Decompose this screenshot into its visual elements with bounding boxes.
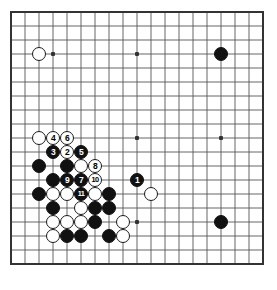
numbered-stone-11: 11 (74, 187, 89, 202)
move-number-label: 4 (47, 132, 60, 145)
star-point (135, 52, 138, 55)
numbered-stone-1: 1 (130, 173, 145, 188)
move-number-label: 3 (47, 146, 60, 159)
star-point (135, 136, 138, 139)
numbered-stone-5: 5 (74, 145, 89, 160)
numbered-stone-4: 4 (46, 131, 61, 146)
move-number-label: 1 (131, 174, 144, 187)
numbered-stone-9: 9 (60, 173, 75, 188)
go-board-diagram: 4632589710111 (0, 0, 277, 290)
numbered-stone-10: 10 (88, 173, 103, 188)
move-number-label: 10 (89, 174, 102, 187)
star-point (219, 136, 222, 139)
star-point (51, 52, 54, 55)
numbered-stone-3: 3 (46, 145, 61, 160)
move-number-label: 7 (75, 174, 88, 187)
move-number-label: 11 (75, 188, 88, 201)
numbered-stone-6: 6 (60, 131, 75, 146)
move-number-label: 8 (89, 160, 102, 173)
move-number-label: 9 (61, 174, 74, 187)
numbered-stone-2: 2 (60, 145, 75, 160)
numbered-stone-8: 8 (88, 159, 103, 174)
move-number-label: 2 (61, 146, 74, 159)
move-number-label: 6 (61, 132, 74, 145)
move-number-label: 5 (75, 146, 88, 159)
star-point (135, 220, 138, 223)
board-grid (0, 0, 277, 290)
numbered-stone-7: 7 (74, 173, 89, 188)
